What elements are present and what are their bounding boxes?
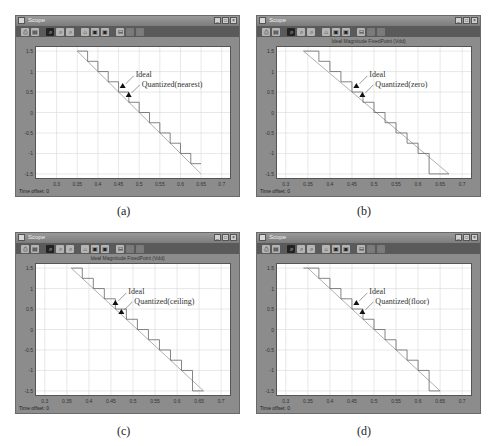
maximize-button[interactable]: □ [222,17,229,24]
print-icon[interactable]: ⎙ [262,245,270,253]
title-bar[interactable]: Scope_□× [16,233,239,243]
plot-title: Ideal Magnitude FixedPoint (Vdd) [257,38,480,44]
x-tick-label: 0.5 [125,398,141,404]
restore-axes-icon[interactable]: ▣ [101,28,109,36]
panel-caption-c: (c) [117,424,130,439]
lock-icon[interactable]: ◌ [367,28,375,36]
y-tick-label: 1 [260,286,274,292]
x-tick-label: 0.4 [322,181,338,187]
ideal-marker-icon [353,300,359,305]
close-button[interactable]: × [230,234,237,241]
zoom-y-icon[interactable]: ⌕ [307,28,315,36]
y-tick-label: 1 [260,69,274,75]
lock-icon[interactable]: ◌ [367,245,375,253]
plot-title: Ideal Magnitude FixedPoint (Vdd) [16,255,239,261]
zoom-icon[interactable]: ⌕ [287,28,295,36]
zoom-x-icon[interactable]: ⌕ [56,245,64,253]
x-tick-label: 0.45 [111,181,127,187]
y-tick-label: -0.5 [260,347,274,353]
ideal-marker-icon [120,83,126,88]
y-tick-label: -1 [19,150,33,156]
close-button[interactable]: × [230,17,237,24]
autoscale-icon[interactable]: ⌂ [322,245,330,253]
zoom-y-icon[interactable]: ⌕ [66,245,74,253]
save-axes-icon[interactable]: ▣ [91,28,99,36]
x-tick-label: 0.45 [344,181,360,187]
minimize-button[interactable]: _ [455,17,462,24]
x-tick-label: 0.5 [366,398,382,404]
close-button[interactable]: × [471,17,478,24]
float-icon[interactable]: ⊟ [357,245,365,253]
params-icon[interactable]: ▤ [31,28,39,36]
x-tick-label: 0.5 [366,181,382,187]
autoscale-icon[interactable]: ⌂ [81,245,89,253]
x-tick-label: 0.4 [81,398,97,404]
zoom-icon[interactable]: ⌕ [46,28,54,36]
params-icon[interactable]: ▤ [272,245,280,253]
autoscale-icon[interactable]: ⌂ [322,28,330,36]
minimize-button[interactable]: _ [214,17,221,24]
float-icon[interactable]: ⊟ [357,28,365,36]
print-icon[interactable]: ⎙ [21,28,29,36]
save-axes-icon[interactable]: ▣ [91,245,99,253]
maximize-button[interactable]: □ [463,17,470,24]
save-axes-icon[interactable]: ▣ [332,28,340,36]
close-button[interactable]: × [471,234,478,241]
signal-select-icon[interactable]: ◌ [136,245,144,253]
save-axes-icon[interactable]: ▣ [332,245,340,253]
zoom-y-icon[interactable]: ⌕ [66,28,74,36]
float-icon[interactable]: ⊟ [116,245,124,253]
x-tick-label: 0.45 [103,398,119,404]
x-tick-label: 0.7 [454,181,470,187]
zoom-x-icon[interactable]: ⌕ [297,28,305,36]
params-icon[interactable]: ▤ [31,245,39,253]
plot-axes[interactable]: IdealQuantized(floor) [276,263,472,396]
print-icon[interactable]: ⎙ [21,245,29,253]
zoom-icon[interactable]: ⌕ [287,245,295,253]
restore-axes-icon[interactable]: ▣ [101,245,109,253]
plot-canvas [36,264,230,395]
title-bar[interactable]: Scope_□× [257,16,480,26]
zoom-icon[interactable]: ⌕ [46,245,54,253]
x-tick-label: 0.55 [388,181,404,187]
plot-axes[interactable]: IdealQuantized(zero) [276,46,472,179]
time-offset-status: Time offset: 0 [260,188,290,194]
time-offset-status: Time offset: 0 [260,405,290,411]
params-icon[interactable]: ▤ [272,28,280,36]
print-icon[interactable]: ⎙ [262,28,270,36]
scope-app-icon [259,17,266,24]
plot-axes[interactable]: IdealQuantized(ceiling) [35,263,231,396]
signal-select-icon[interactable]: ◌ [377,28,385,36]
lock-icon[interactable]: ◌ [126,245,134,253]
minimize-button[interactable]: _ [455,234,462,241]
y-tick-label: -1 [19,367,33,373]
zoom-x-icon[interactable]: ⌕ [297,245,305,253]
maximize-button[interactable]: □ [463,234,470,241]
y-tick-label: 1 [19,69,33,75]
y-tick-label: -0.5 [19,130,33,136]
title-bar[interactable]: Scope_□× [257,233,480,243]
minimize-button[interactable]: _ [214,234,221,241]
x-tick-label: 0.4 [90,181,106,187]
autoscale-icon[interactable]: ⌂ [81,28,89,36]
restore-axes-icon[interactable]: ▣ [342,245,350,253]
x-tick-label: 0.35 [300,181,316,187]
signal-select-icon[interactable]: ◌ [136,28,144,36]
plot-axes[interactable]: IdealQuantized(nearest) [35,46,231,179]
plot-canvas [36,47,230,178]
y-tick-label: 0.5 [19,89,33,95]
zoom-y-icon[interactable]: ⌕ [307,245,315,253]
signal-select-icon[interactable]: ◌ [377,245,385,253]
annotation-leader-line [359,293,367,301]
y-tick-label: -0.5 [19,347,33,353]
window-title: Scope [28,17,45,23]
x-tick-label: 0.3 [37,398,53,404]
title-bar[interactable]: Scope_□× [16,16,239,26]
maximize-button[interactable]: □ [222,234,229,241]
annotation-leader-line [365,85,373,93]
lock-icon[interactable]: ◌ [126,28,134,36]
restore-axes-icon[interactable]: ▣ [342,28,350,36]
zoom-x-icon[interactable]: ⌕ [56,28,64,36]
float-icon[interactable]: ⊟ [116,28,124,36]
y-tick-label: -1.5 [19,388,33,394]
